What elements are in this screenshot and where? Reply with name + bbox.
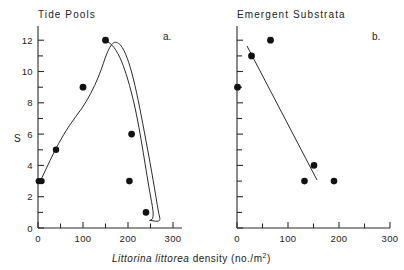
x-ticks-left	[38, 222, 173, 228]
x-tick-200: 200	[119, 233, 136, 244]
data-point	[331, 178, 338, 185]
x-tick-100: 100	[74, 233, 91, 244]
data-point	[301, 178, 308, 185]
x-axis-caption: Littorina littorea density (no./m2)	[112, 252, 271, 264]
panel-label-b: b.	[372, 31, 380, 42]
y-tick-12: 12	[22, 35, 33, 46]
caption-density-text: density (no./m	[189, 253, 262, 264]
panel-title-emergent-substrata: Emergent Substrata	[237, 9, 346, 20]
y-tick-8: 8	[27, 97, 33, 108]
data-point	[234, 84, 241, 91]
x-tick-200: 200	[330, 233, 347, 244]
caption-species-name: Littorina littorea	[112, 253, 189, 264]
panel-emergent-substrata: Emergent Substrata b.	[234, 9, 398, 244]
x-tick-300: 300	[381, 233, 398, 244]
x-tick-labels-right: 0 100 200 300	[234, 233, 398, 244]
data-point	[38, 178, 44, 184]
y-ticks-left	[38, 40, 44, 228]
y-tick-labels-left: 0 2 4 6 8 10 12	[22, 35, 33, 234]
x-tick-labels-left: 0 100 200 300	[35, 233, 181, 244]
data-point	[248, 53, 255, 60]
data-point	[267, 37, 274, 44]
panel-label-a: a.	[163, 31, 171, 42]
panel-title-tide-pools: Tide Pools	[38, 9, 96, 20]
x-tick-0: 0	[35, 233, 41, 244]
fit-line-right	[247, 46, 317, 180]
x-tick-100: 100	[279, 233, 296, 244]
panel-tide-pools: Tide Pools a. 0 2 4 6 8 10	[14, 9, 182, 244]
data-point	[128, 131, 135, 138]
fit-curve-left-tail	[106, 41, 154, 221]
y-ticks-right	[237, 40, 243, 228]
data-points-left	[36, 37, 150, 216]
data-points-right	[234, 37, 337, 185]
y-axis-label-left: S	[14, 133, 21, 144]
caption-closing-paren: )	[267, 253, 271, 264]
y-tick-4: 4	[27, 160, 33, 171]
data-point	[53, 147, 59, 153]
data-point	[311, 162, 318, 169]
fit-curve-left	[40, 42, 160, 221]
x-tick-0: 0	[234, 233, 240, 244]
figure-two-panel-scatter: Tide Pools a. 0 2 4 6 8 10	[0, 0, 404, 270]
data-point	[80, 84, 87, 91]
y-tick-0: 0	[27, 223, 33, 234]
data-point	[102, 37, 109, 44]
x-tick-300: 300	[164, 233, 181, 244]
data-point	[126, 178, 133, 185]
y-tick-10: 10	[22, 66, 33, 77]
y-tick-2: 2	[27, 191, 33, 202]
data-point	[143, 209, 150, 216]
x-ticks-right	[237, 222, 390, 228]
y-tick-6: 6	[27, 129, 33, 140]
